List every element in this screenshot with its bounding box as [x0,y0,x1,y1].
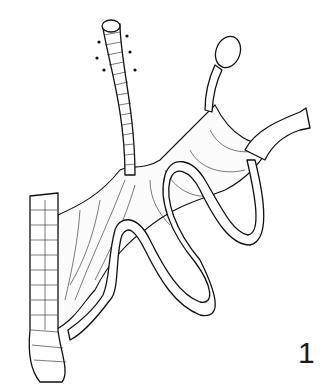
bowel-upper-right-limb [245,108,310,160]
vascular-pedicle [103,24,135,175]
stoma-stalk [205,65,222,112]
figure-number: 1 [298,338,315,368]
pedicle-lumen [102,20,120,32]
anatomical-illustration [0,0,324,392]
